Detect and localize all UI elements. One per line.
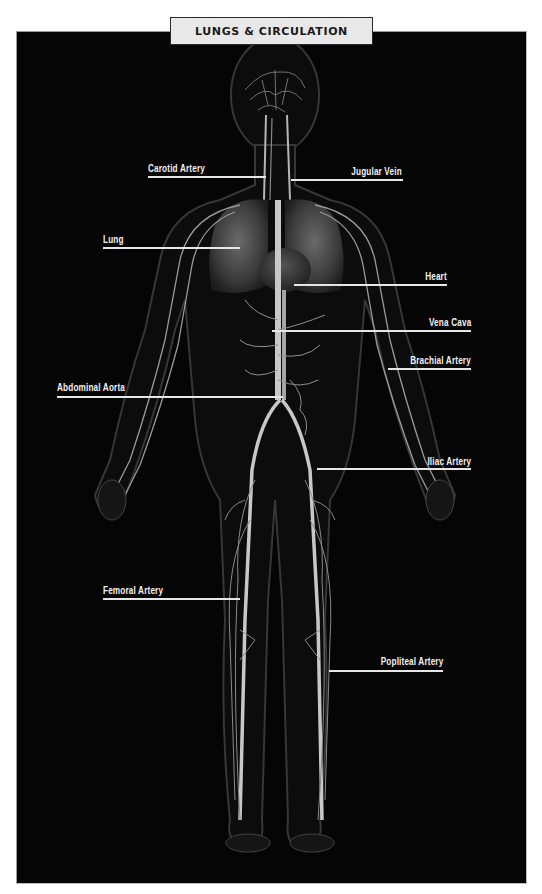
- leader-carotid-artery: [148, 176, 266, 178]
- label-brachial-artery: Brachial Artery: [410, 354, 471, 366]
- label-iliac-artery: Iliac Artery: [427, 455, 471, 467]
- label-lung: Lung: [103, 233, 124, 245]
- label-carotid-artery: Carotid Artery: [148, 162, 205, 174]
- label-abdominal-aorta: Abdominal Aorta: [57, 381, 125, 393]
- body-silhouette: [95, 37, 455, 848]
- label-jugular-vein: Jugular Vein: [351, 165, 402, 177]
- leader-brachial-artery: [388, 368, 471, 370]
- label-femoral-artery: Femoral Artery: [103, 584, 163, 596]
- diagram-title: LUNGS & CIRCULATION: [195, 25, 348, 38]
- leader-lung: [103, 247, 240, 249]
- leader-femoral-artery: [103, 598, 240, 600]
- label-heart: Heart: [425, 270, 447, 282]
- leader-jugular-vein: [291, 179, 403, 181]
- label-vena-cava: Vena Cava: [429, 316, 471, 328]
- leader-vena-cava: [272, 330, 471, 332]
- label-popliteal-artery: Popliteal Artery: [380, 655, 443, 667]
- leader-abdominal-aorta: [57, 396, 283, 398]
- leader-iliac-artery: [317, 468, 471, 470]
- title-banner: LUNGS & CIRCULATION: [170, 17, 373, 45]
- leader-popliteal-artery: [329, 670, 443, 672]
- leader-heart: [294, 284, 447, 286]
